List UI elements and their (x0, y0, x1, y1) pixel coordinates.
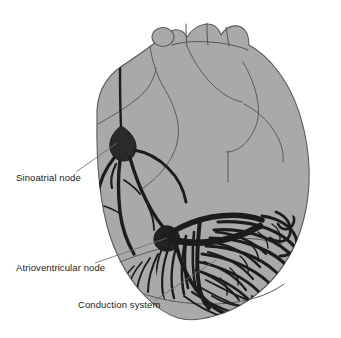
heart-body-outline (97, 24, 309, 320)
heart-conduction-diagram: Sinoatrial node Atrioventricular node Co… (0, 0, 341, 338)
label-atrioventricular-node: Atrioventricular node (16, 262, 105, 273)
aortic-arch-branch-left (186, 24, 187, 44)
label-conduction-system: Conduction system (78, 299, 161, 310)
sa-node-superior-stem (120, 66, 121, 126)
label-sinoatrial-node: Sinoatrial node (16, 172, 81, 183)
brachiocephalic-vessel-stump (152, 28, 174, 47)
heart-silhouette (97, 24, 309, 320)
